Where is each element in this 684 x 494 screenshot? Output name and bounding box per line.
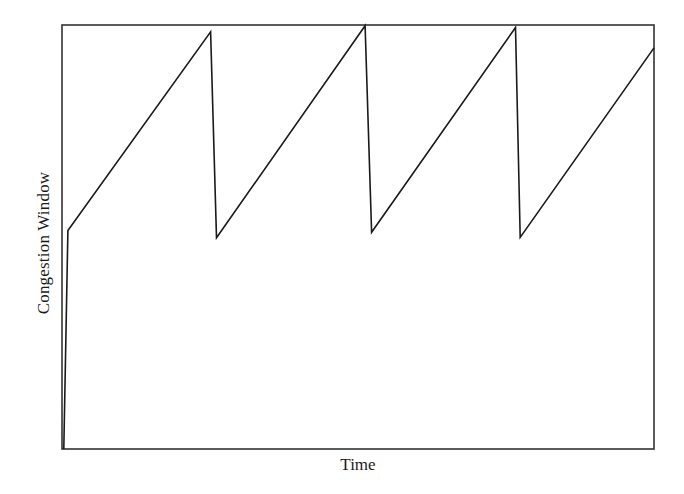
chart-canvas	[0, 0, 684, 494]
congestion-window-line	[64, 26, 654, 449]
y-axis-label: Congestion Window	[34, 172, 54, 315]
x-axis-label: Time	[0, 455, 684, 475]
plot-frame	[62, 25, 654, 449]
